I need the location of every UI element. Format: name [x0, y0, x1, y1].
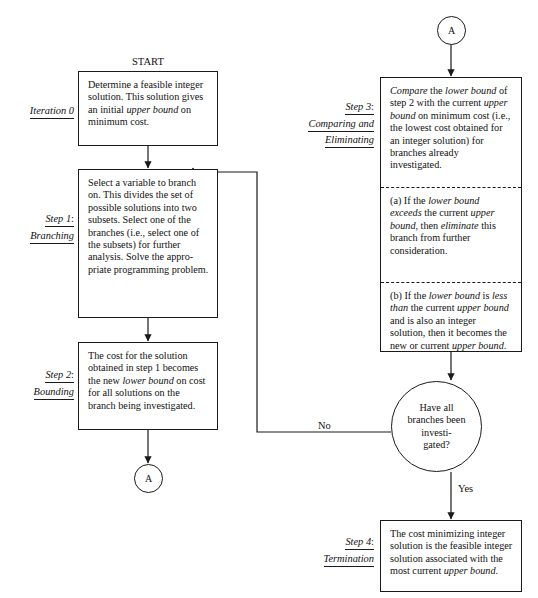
- node-step-1[interactable]: Select a variable to branch on. This div…: [78, 169, 218, 318]
- step-label-step-4: Step 4: Termination: [288, 535, 374, 567]
- connector-a-top-label: A: [448, 25, 455, 36]
- connector-a-top[interactable]: A: [437, 16, 466, 45]
- step-label-step-2-line2: Bounding: [34, 385, 74, 400]
- decision-all-branches-investigated[interactable]: Have all branches been investi- gated?: [391, 381, 482, 472]
- node-step-4-text: The cost minimizing integer solution is …: [381, 521, 521, 584]
- step-label-step-3-line3: Eliminating: [325, 133, 374, 148]
- step-label-step-2-line1: Step 2:: [45, 368, 74, 383]
- node-step-1-text: Select a variable to branch on. This div…: [79, 170, 217, 282]
- step-label-step-4-line2: Termination: [324, 552, 374, 567]
- connector-a-bottom-label: A: [145, 473, 152, 484]
- step-label-iteration-0-line1: Iteration 0: [30, 104, 74, 119]
- flowchart-canvas: START Determine a feasible integer solut…: [0, 0, 538, 598]
- step-label-step-3-line2: Comparing and: [308, 117, 374, 132]
- node-step-3-text-a: (a) If the lower bound exceeds the curre…: [381, 188, 521, 283]
- node-step-2-text: The cost for the solution obtained in st…: [79, 343, 217, 418]
- decision-text: Have all branches been investi- gated?: [408, 402, 466, 451]
- start-label: START: [108, 56, 188, 67]
- step-label-iteration-0: Iteration 0: [2, 104, 74, 119]
- node-step-4[interactable]: The cost minimizing integer solution is …: [380, 520, 522, 592]
- node-step-3-text-main: Compare the lower bound of step 2 with t…: [381, 78, 521, 188]
- step-label-step-2: Step 2: Bounding: [2, 368, 74, 400]
- connector-a-bottom[interactable]: A: [134, 464, 163, 493]
- step-label-step-1-line1: Step 1:: [45, 212, 74, 227]
- node-step-3-text-b: (b) If the lower bound is less than the …: [381, 283, 521, 390]
- node-step-2[interactable]: The cost for the solution obtained in st…: [78, 342, 218, 430]
- step-label-step-1: Step 1: Branching: [2, 212, 74, 244]
- node-step-3[interactable]: Compare the lower bound of step 2 with t…: [380, 77, 522, 352]
- step-label-step-1-line2: Branching: [30, 229, 74, 244]
- step-label-step-4-line1: Step 4:: [345, 535, 374, 550]
- step-label-step-3-line1: Step 3:: [345, 100, 374, 115]
- edge-label-no: No: [318, 420, 331, 431]
- node-iteration-0-text: Determine a feasible integer solution. T…: [79, 72, 217, 135]
- edge-label-yes: Yes: [458, 483, 473, 494]
- step-label-step-3: Step 3: Comparing and Eliminating: [288, 100, 374, 148]
- node-iteration-0[interactable]: Determine a feasible integer solution. T…: [78, 71, 218, 146]
